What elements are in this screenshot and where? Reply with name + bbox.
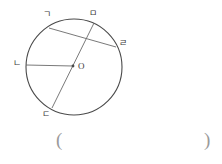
geometry-figure: ㄱ ㅁ ㄹ ㄴ ㄷ O ( ) xyxy=(0,0,222,164)
point-label-nieun: ㄴ xyxy=(13,59,21,68)
center-point-dot xyxy=(72,65,75,68)
point-label-mieum: ㅁ xyxy=(89,9,97,18)
main-circle xyxy=(26,19,122,115)
answer-row: ( ) xyxy=(0,130,222,160)
point-label-giyeok: ㄱ xyxy=(43,10,51,19)
radius-nieun-center xyxy=(26,65,73,66)
center-label-o: O xyxy=(78,62,85,71)
answer-close-paren: ) xyxy=(204,130,210,149)
point-label-rieul: ㄹ xyxy=(119,39,127,48)
answer-blank[interactable] xyxy=(66,132,202,152)
answer-open-paren: ( xyxy=(56,130,62,149)
point-label-digeut: ㄷ xyxy=(42,110,50,119)
